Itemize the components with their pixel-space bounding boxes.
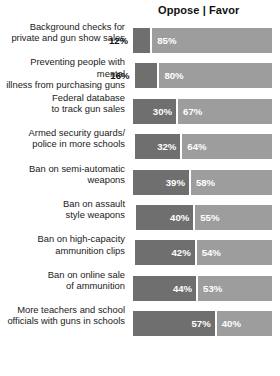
- bar-segment-favor: 85%: [150, 28, 272, 53]
- chart-row: Armed security guards/ police in more sc…: [0, 127, 280, 162]
- favor-value-label: 67%: [183, 106, 202, 117]
- bar-segment-favor: 80%: [157, 63, 272, 88]
- oppose-value-label: 40%: [170, 212, 189, 223]
- legend-header: Oppose | Favor: [158, 4, 240, 16]
- oppose-value-label: 32%: [157, 141, 176, 152]
- bar-segment-oppose: 39%: [133, 170, 189, 195]
- favor-value-label: 55%: [200, 212, 219, 223]
- chart-row: Federal database to track gun sales30%67…: [0, 92, 280, 127]
- chart-row: Preventing people with mental illness fr…: [0, 56, 280, 91]
- bar-segment-favor: 67%: [176, 99, 272, 124]
- oppose-value-label: 12%: [109, 35, 128, 46]
- favor-value-label: 58%: [196, 177, 215, 188]
- oppose-value-label: 44%: [173, 283, 192, 294]
- stacked-bar: 16%80%: [135, 63, 272, 88]
- favor-value-label: 53%: [203, 283, 222, 294]
- oppose-value-label: 57%: [192, 318, 211, 329]
- bar-segment-oppose: 16%: [135, 63, 158, 88]
- bar-segment-favor: 54%: [195, 240, 272, 265]
- chart-row: Background checks for private and gun sh…: [0, 21, 280, 56]
- stacked-bar: 39%58%: [133, 170, 272, 195]
- bar-segment-favor: 40%: [215, 311, 272, 336]
- chart-row: Ban on assault style weapons40%55%: [0, 198, 280, 233]
- bar-segment-favor: 53%: [196, 276, 272, 301]
- favor-value-label: 85%: [157, 35, 176, 46]
- bar-segment-oppose: 12%: [133, 28, 150, 53]
- favor-value-label: 80%: [164, 70, 183, 81]
- favor-value-label: 64%: [187, 141, 206, 152]
- bar-segment-oppose: 57%: [133, 311, 215, 336]
- bar-segment-oppose: 32%: [135, 134, 181, 159]
- chart-row: More teachers and school officials with …: [0, 304, 280, 339]
- stacked-bar: 30%67%: [133, 99, 272, 124]
- oppose-value-label: 30%: [153, 106, 172, 117]
- bar-segment-favor: 55%: [193, 205, 272, 230]
- oppose-value-label: 39%: [166, 177, 185, 188]
- bar-segment-oppose: 30%: [133, 99, 176, 124]
- oppose-value-label: 16%: [110, 70, 129, 81]
- bar-segment-favor: 64%: [180, 134, 272, 159]
- chart-row: Ban on semi-automatic weapons39%58%: [0, 163, 280, 198]
- chart-row: Ban on online sale of ammunition44%53%: [0, 269, 280, 304]
- chart-row: Ban on high-capacity ammunition clips42%…: [0, 233, 280, 268]
- stacked-bar: 57%40%: [133, 311, 272, 336]
- chart-rows: Background checks for private and gun sh…: [0, 21, 280, 340]
- stacked-bar-chart: Oppose | Favor Background checks for pri…: [0, 0, 280, 376]
- oppose-value-label: 42%: [171, 247, 190, 258]
- stacked-bar: 42%54%: [135, 240, 272, 265]
- stacked-bar: 40%55%: [136, 205, 272, 230]
- favor-value-label: 40%: [222, 318, 241, 329]
- bar-segment-oppose: 42%: [135, 240, 195, 265]
- favor-value-label: 54%: [202, 247, 221, 258]
- stacked-bar: 12%85%: [133, 28, 272, 53]
- bar-segment-favor: 58%: [189, 170, 272, 195]
- stacked-bar: 32%64%: [135, 134, 272, 159]
- stacked-bar: 44%53%: [133, 276, 272, 301]
- bar-segment-oppose: 40%: [136, 205, 193, 230]
- bar-segment-oppose: 44%: [133, 276, 196, 301]
